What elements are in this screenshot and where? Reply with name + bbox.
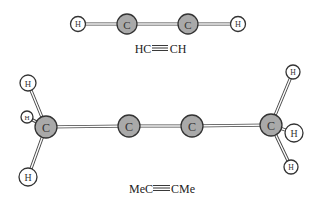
atom-label: H — [290, 128, 297, 139]
carbon-atom-C1: C — [117, 14, 137, 34]
triple-bond-symbol — [152, 46, 168, 51]
carbon-atom-Cd: C — [260, 114, 282, 136]
atom-label: H — [24, 114, 29, 122]
atom-label: C — [42, 121, 50, 135]
formula-ethyne-right: CH — [170, 42, 187, 56]
carbon-atom-Cb: C — [118, 115, 140, 137]
atom-label: C — [188, 120, 196, 134]
molecule-diagram: HCCHHHHCCCCHHH HC CH MeC CMe — [0, 0, 324, 201]
hydrogen-atom-Hd: H — [286, 65, 300, 79]
formula-butyne-right: CMe — [171, 182, 195, 196]
atom-label: C — [123, 19, 130, 31]
bonds-layer — [27, 24, 294, 177]
atom-label: C — [267, 119, 275, 133]
formula-butyne: MeC CMe — [129, 182, 195, 196]
hydrogen-atom-Hb: H — [21, 111, 33, 123]
atom-label: H — [25, 79, 32, 89]
hydrogen-atom-H1: H — [71, 17, 86, 32]
atom-label: H — [75, 20, 81, 29]
atoms-layer: HCCHHHHCCCCHHH — [19, 14, 303, 186]
atom-label: H — [290, 68, 296, 77]
atom-label: H — [24, 172, 31, 183]
bond-Cc-Cd — [192, 125, 271, 126]
hydrogen-atom-Hc: H — [19, 168, 37, 186]
carbon-atom-Cc: C — [181, 115, 203, 137]
carbon-atom-Ca: C — [35, 116, 57, 138]
atom-label: H — [288, 163, 294, 172]
hydrogen-atom-H2: H — [231, 17, 246, 32]
atom-label: H — [235, 20, 241, 29]
hydrogen-atom-Hf: H — [284, 160, 298, 174]
carbon-atom-C2: C — [178, 14, 198, 34]
atom-label: C — [184, 19, 191, 31]
atom-label: C — [125, 120, 133, 134]
hydrogen-atom-Ha: H — [20, 75, 36, 91]
formula-butyne-left: MeC — [129, 182, 153, 196]
triple-bond-symbol — [153, 186, 170, 191]
formula-ethyne: HC CH — [135, 42, 187, 56]
formula-ethyne-left: HC — [135, 42, 152, 56]
hydrogen-atom-He: H — [285, 124, 303, 142]
bond-Ca-Cb — [46, 126, 129, 127]
